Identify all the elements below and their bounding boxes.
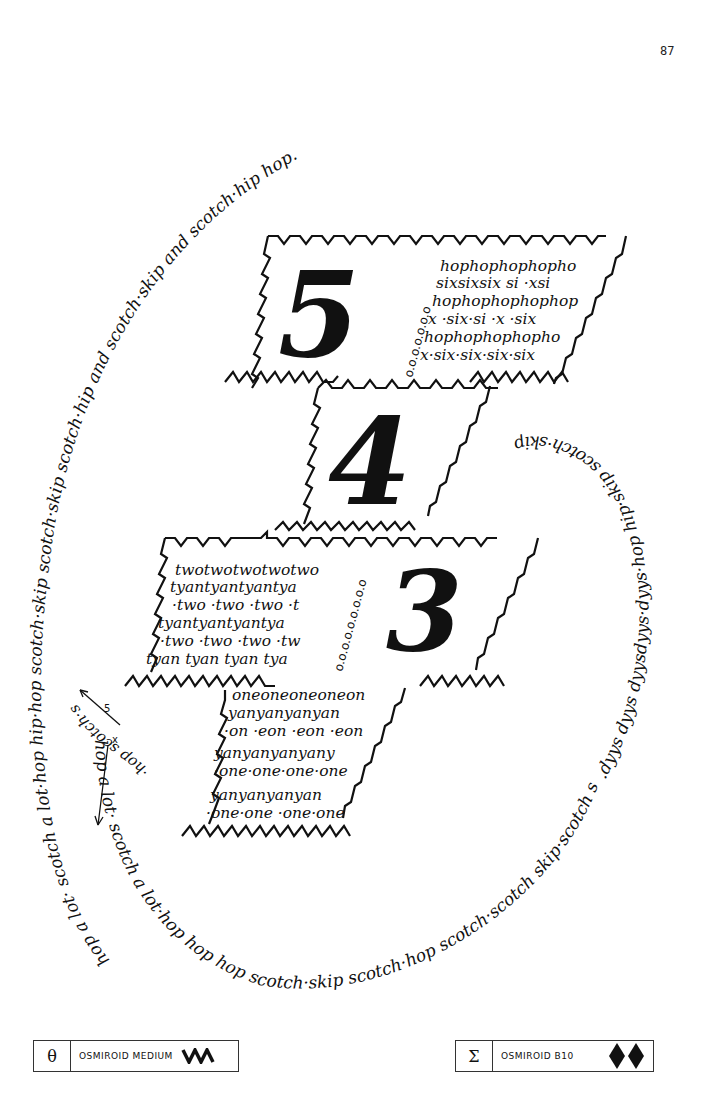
svg-text:x ·six·si ·x ·six: x ·six·si ·x ·six [428, 310, 536, 328]
svg-text:x·six·six·six·six: x·six·six·six·six [420, 346, 535, 364]
spiral-outer-text: hop a lot· scotch a lot·hop hip·hop scot… [25, 144, 300, 970]
pen-legend-right: Σ Osmiroid B10 [455, 1040, 654, 1072]
pen-label-left: Osmiroid Medium [71, 1051, 179, 1061]
svg-text:tyantyantyantya: tyantyantyantya [158, 614, 285, 632]
pen-label-right: Osmiroid B10 [493, 1051, 580, 1061]
theta-icon: θ [34, 1041, 71, 1071]
svg-text:hophophophophop: hophophophophop [432, 292, 578, 310]
svg-text:·on ·eon ·eon ·eon: ·on ·eon ·eon ·eon [224, 722, 363, 740]
spiral-inner-left-text: ·hop scotch·skip [0, 0, 152, 781]
svg-text:·one·one ·one·one: ·one·one ·one·one [206, 804, 345, 822]
svg-text:yanyanyanyany: yanyanyanyany [213, 744, 335, 762]
svg-text:yanyanyanyan: yanyanyanyan [227, 704, 340, 722]
arrow-mark-5: 5 [104, 703, 110, 714]
svg-text:yanyanyanyan: yanyanyanyan [209, 786, 322, 804]
dots-column-3: o.o.o.o.o.o.o.o.o [331, 577, 369, 672]
spiral-lower-text: hop a lot· scotch a lot·hop hop hop scot… [0, 0, 602, 993]
pattern-block-1: oneoneoneoneon yanyanyanyan ·on ·eon ·eo… [206, 686, 365, 822]
numeral-5: 5 [278, 245, 360, 384]
pattern-block-3: twotwotwotwotwo tyantyantyantya ·two ·tw… [146, 561, 319, 668]
svg-text:·two ·two ·two ·tw: ·two ·two ·two ·tw [160, 632, 300, 650]
numeral-4: 4 [328, 391, 412, 532]
arrow-mark-x: x [112, 734, 118, 745]
svg-text:·one·one·one·one: ·one·one·one·one [214, 762, 348, 780]
svg-text:tyantyantyantya: tyantyantyantya [170, 578, 297, 596]
svg-text:tyan tyan tyan tya: tyan tyan tyan tya [146, 650, 288, 668]
hopscotch-illustration: hop a lot· scotch a lot·hop hip·hop scot… [0, 0, 718, 1117]
double-diamond-icon [607, 1042, 647, 1070]
svg-text:·two ·two ·two ·t: ·two ·two ·two ·t [172, 596, 300, 614]
pen-legend-left: θ Osmiroid Medium [33, 1040, 239, 1072]
pattern-block-5: hophophophopho sixsixsix si ·xsi hophoph… [420, 257, 578, 364]
svg-text:sixsixsix si ·xsi: sixsixsix si ·xsi [436, 274, 550, 292]
zigzag-icon [181, 1048, 215, 1064]
sigma-icon: Σ [456, 1041, 493, 1071]
svg-text:hophophophopho: hophophophopho [424, 328, 560, 346]
svg-text:twotwotwotwotwo: twotwotwotwotwo [175, 561, 319, 579]
svg-text:hophophophopho: hophophophopho [440, 257, 576, 275]
numeral-3: 3 [386, 547, 463, 676]
svg-text:oneoneoneoneon: oneoneoneoneon [232, 686, 365, 704]
